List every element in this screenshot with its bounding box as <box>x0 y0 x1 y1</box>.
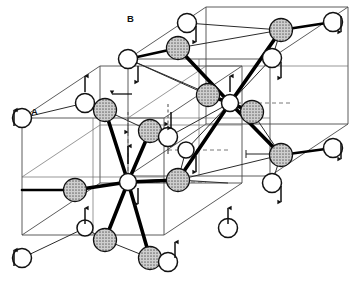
open-atom <box>178 142 194 158</box>
hatched-atom <box>64 179 87 202</box>
structure-canvas: A B <box>0 0 360 285</box>
hatched-atom <box>139 247 162 270</box>
crystal-structure-figure: A B <box>0 0 360 285</box>
open-atom <box>263 174 282 193</box>
hatched-atom <box>94 99 117 122</box>
hatched-atom <box>197 84 220 107</box>
site-label-a: A <box>31 106 38 117</box>
hatched-atom <box>241 101 264 124</box>
hatched-atom <box>270 144 293 167</box>
open-atom <box>76 94 95 113</box>
site-label-b: B <box>127 13 134 24</box>
open-atom-site-b <box>119 50 138 69</box>
hatched-atom <box>270 19 293 42</box>
open-atom <box>178 14 197 33</box>
hatched-atom <box>167 37 190 60</box>
open-atom-centre-lower <box>120 174 137 191</box>
open-atom <box>159 128 178 147</box>
hatched-atom <box>167 169 190 192</box>
open-atom-site-a <box>13 109 32 128</box>
open-atom <box>324 139 343 158</box>
open-atom <box>324 13 343 32</box>
hatched-atom-group <box>64 19 293 270</box>
open-atom-centre-upper <box>222 95 239 112</box>
hatched-atom <box>94 229 117 252</box>
open-atom <box>263 49 282 68</box>
open-atom <box>13 249 32 268</box>
